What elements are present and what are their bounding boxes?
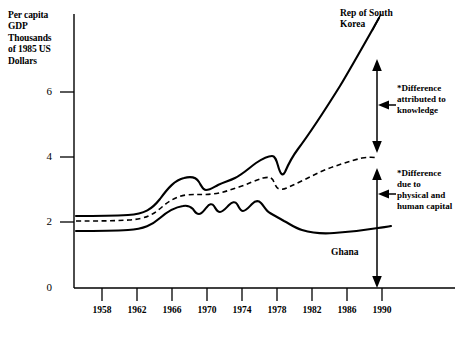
y-tick-label-2: 2 [32,215,52,227]
chart-container: Per capita GDP Thousands of 1985 US Doll… [0,0,464,337]
x-tick-label-1974: 1974 [222,305,262,315]
series-label-korea-line: Rep of South [340,8,420,19]
series-label-korea-line: Korea [340,19,420,30]
knowledge-gap-arrow [372,59,382,153]
annotation-capital-gap: *Difference due to physical and human ca… [397,168,463,212]
y-tick-label-6: 6 [32,85,52,97]
y-axis-title: Per capita GDP Thousands of 1985 US Doll… [8,10,74,67]
y-axis-title-line: Per capita [8,10,74,21]
y-axis-title-line: GDP [8,21,74,32]
knowledge-note-leader-arrow [378,100,396,109]
annotation-knowledge-line: knowledge [397,105,463,116]
series-label-ghana: Ghana [331,247,377,257]
x-tick-label-1970: 1970 [187,305,227,315]
y-tick-marks [60,92,74,222]
annotation-capital-line: *Difference [397,168,463,179]
capital-note-leader-arrow [378,189,396,198]
y-axis-title-line: of 1985 US [8,44,74,55]
x-tick-label-1982: 1982 [292,305,332,315]
series-line-dashed-difference [76,157,377,221]
x-tick-marks [102,288,382,301]
y-tick-label-0: 0 [32,281,52,293]
series-line-korea [76,18,379,216]
x-tick-label-1978: 1978 [257,305,297,315]
annotation-knowledge-line: *Difference [397,83,463,94]
x-tick-label-1990: 1990 [362,305,402,315]
annotation-knowledge-line: attributed to [397,94,463,105]
x-tick-label-1986: 1986 [327,305,367,315]
x-tick-label-1962: 1962 [117,305,157,315]
annotation-capital-line: physical and [397,190,463,201]
annotation-capital-line: human capital [397,201,463,212]
series-label-korea: Rep of South Korea [340,8,420,30]
series-line-ghana [76,201,391,233]
y-axis-title-line: Thousands [8,33,74,44]
x-tick-label-1958: 1958 [82,305,122,315]
y-axis-title-line: Dollars [8,56,74,67]
annotation-capital-line: due to [397,179,463,190]
y-tick-label-4: 4 [32,150,52,162]
x-tick-label-1966: 1966 [152,305,192,315]
annotation-knowledge-gap: *Difference attributed to knowledge [397,83,463,116]
